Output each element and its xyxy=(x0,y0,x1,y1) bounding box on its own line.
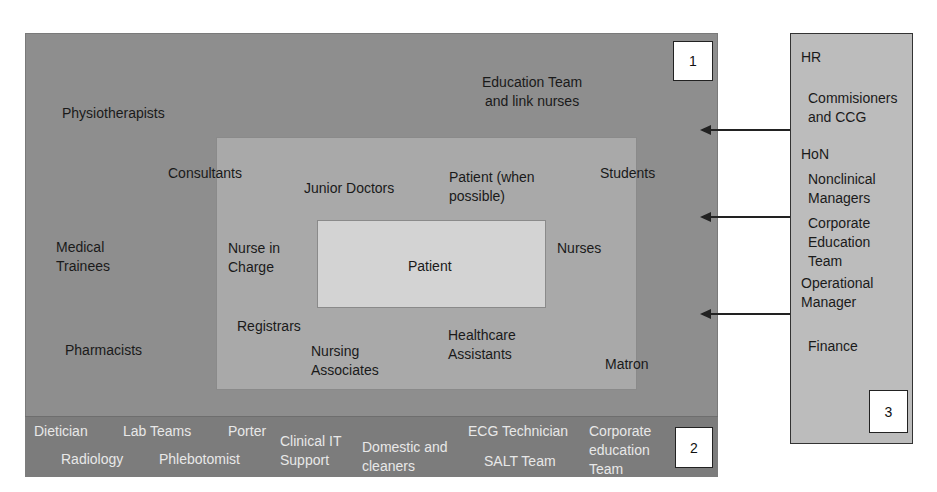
label-corporate-education-team-2: Corporate education Team xyxy=(589,422,651,479)
label-finance: Finance xyxy=(808,337,858,356)
label-nurses: Nurses xyxy=(557,239,601,258)
label-pharmacists: Pharmacists xyxy=(65,341,142,360)
label-ecg-technician: ECG Technician xyxy=(468,422,568,441)
zone-1-badge: 1 xyxy=(673,41,713,81)
label-junior-doctors: Junior Doctors xyxy=(304,179,394,198)
label-commissioners-ccg: Commisioners and CCG xyxy=(808,89,897,127)
label-hon: HoN xyxy=(801,145,829,164)
label-nurse-in-charge: Nurse in Charge xyxy=(228,239,280,277)
label-domestic-cleaners: Domestic and cleaners xyxy=(362,438,448,476)
arrow-zone3-to-zone1-bottom xyxy=(702,313,790,315)
zone-2-badge: 2 xyxy=(675,427,713,468)
label-patient-when-possible: Patient (when possible) xyxy=(449,168,535,206)
label-nonclinical-managers: Nonclinical Managers xyxy=(808,170,876,208)
label-medical-trainees: Medical Trainees xyxy=(56,238,110,276)
label-patient: Patient xyxy=(408,257,452,276)
label-healthcare-assistants: Healthcare Assistants xyxy=(448,326,516,364)
label-salt-team: SALT Team xyxy=(484,452,556,471)
label-clinical-it-support: Clinical IT Support xyxy=(280,432,341,470)
arrow-zone3-to-zone1-middle xyxy=(702,216,790,218)
label-nursing-associates: Nursing Associates xyxy=(311,342,379,380)
label-hr: HR xyxy=(801,48,821,67)
label-students: Students xyxy=(600,164,655,183)
label-matron: Matron xyxy=(605,355,649,374)
label-physiotherapists: Physiotherapists xyxy=(62,104,165,123)
arrow-zone3-to-zone1-top xyxy=(702,129,790,131)
label-phlebotomist: Phlebotomist xyxy=(159,450,240,469)
label-lab-teams: Lab Teams xyxy=(123,422,191,441)
label-dietician: Dietician xyxy=(34,422,88,441)
label-radiology: Radiology xyxy=(61,450,123,469)
label-education-team: Education Team and link nurses xyxy=(482,73,582,111)
label-consultants: Consultants xyxy=(168,164,242,183)
label-porter: Porter xyxy=(228,422,266,441)
label-operational-manager: Operational Manager xyxy=(801,274,873,312)
zone-3-badge: 3 xyxy=(869,390,908,433)
label-registrars: Registrars xyxy=(237,317,301,336)
label-corporate-education-team-3: Corporate Education Team xyxy=(808,214,870,271)
